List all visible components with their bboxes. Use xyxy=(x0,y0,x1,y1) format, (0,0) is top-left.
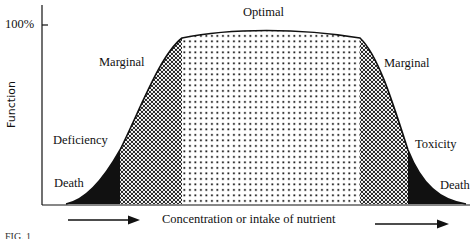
arrow-right-icon xyxy=(375,220,449,229)
deficiency-label: Deficiency xyxy=(53,133,108,148)
toxicity-label: Toxicity xyxy=(415,137,456,152)
arrow-left-icon xyxy=(68,216,140,225)
y-tick-label: 100% xyxy=(5,17,34,32)
marginal-left-label: Marginal xyxy=(99,55,145,70)
optimal-label: Optimal xyxy=(243,5,284,20)
marginal-left-region xyxy=(120,0,182,205)
death-left-region xyxy=(60,0,120,205)
figure-caption: FIG. 1 xyxy=(5,231,31,239)
death-right-region xyxy=(408,0,470,205)
death-right-label: Death xyxy=(440,178,470,193)
death-left-label: Death xyxy=(54,176,84,191)
y-axis-label: Function xyxy=(5,81,18,128)
x-axis-label: Concentration or intake of nutrient xyxy=(162,212,336,227)
marginal-right-region xyxy=(360,0,408,205)
marginal-right-label: Marginal xyxy=(384,56,430,71)
nutrient-response-diagram xyxy=(0,0,475,239)
